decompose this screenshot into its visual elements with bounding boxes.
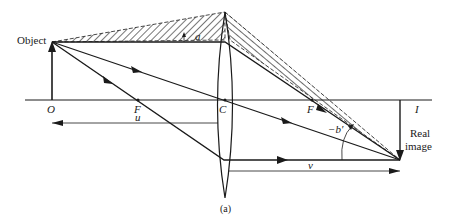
- center-label: C: [219, 103, 227, 115]
- origin-label: O: [47, 103, 55, 115]
- real-image-label-line1: Real: [410, 127, 430, 139]
- hatched-cone-lower: [225, 12, 400, 160]
- u-arrowhead-icon: [52, 120, 63, 126]
- figure-caption: (a): [220, 203, 231, 215]
- real-image-label-line2: image: [405, 140, 432, 152]
- focal-right-label: F: [306, 103, 314, 115]
- u-label: u: [135, 111, 141, 123]
- image-point-label: I: [414, 103, 420, 115]
- v-arrowhead-icon: [389, 168, 400, 174]
- center-point: [224, 99, 227, 102]
- angle-a-label: a: [195, 30, 201, 42]
- angle-b-label: −b′: [328, 123, 344, 135]
- ray-focal-arrow-icon-2: [277, 156, 288, 164]
- ray-central-arrow-icon: [131, 66, 142, 73]
- focal-point-left: [137, 99, 140, 102]
- ray-focal-arrow-icon: [103, 76, 113, 84]
- ray-central-arrow-icon-2: [281, 117, 292, 124]
- object-label: Object: [17, 34, 46, 46]
- lens-ray-diagram: Object O F C F I Real image u v a −b′ (a…: [0, 0, 450, 221]
- focal-point-right: [311, 99, 314, 102]
- v-label: v: [308, 159, 313, 171]
